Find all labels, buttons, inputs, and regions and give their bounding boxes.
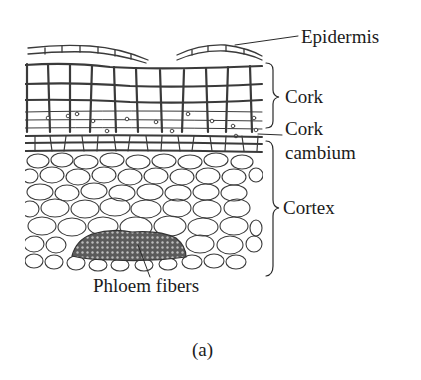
cork-layer	[25, 64, 262, 132]
cortex-brace	[266, 141, 279, 276]
phloem-fiber-cluster	[72, 230, 186, 260]
label-epidermis: Epidermis	[301, 27, 379, 47]
epidermis-layer	[28, 45, 262, 63]
label-cork-cambium-line1: Cork	[285, 119, 323, 139]
cork-brace	[266, 63, 279, 128]
tissue-drawing	[0, 0, 421, 380]
label-cork-cambium-line2: cambium	[285, 143, 356, 163]
bark-cross-section-figure: Epidermis Cork Cork cambium Cortex Phloe…	[0, 0, 421, 380]
label-cork: Cork	[285, 87, 323, 107]
label-phloem-fibers: Phloem fibers	[93, 276, 199, 296]
figure-caption: (a)	[192, 340, 213, 360]
cork-cambium-leader-line	[258, 134, 282, 135]
epidermis-leader-line	[235, 36, 298, 45]
label-cortex: Cortex	[283, 198, 335, 218]
